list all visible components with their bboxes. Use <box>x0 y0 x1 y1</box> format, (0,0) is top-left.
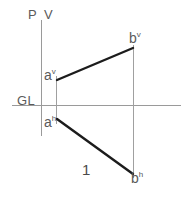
label-a-vertical-superscript: v <box>52 67 56 76</box>
label-a-horizontal: ah <box>44 115 56 129</box>
label-a-vertical-letter: a <box>44 67 52 83</box>
label-v: V <box>44 8 53 21</box>
diagram-canvas: P V GL av ah bv bh 1 <box>0 0 190 201</box>
label-b-vertical-superscript: v <box>137 30 141 39</box>
label-b-horizontal-superscript: h <box>139 170 143 179</box>
label-a-horizontal-superscript: h <box>52 114 56 123</box>
label-b-horizontal: bh <box>131 171 143 185</box>
segment-av-bv <box>57 48 133 80</box>
label-b-vertical: bv <box>129 31 141 45</box>
label-b-vertical-letter: b <box>129 30 137 46</box>
label-a-vertical: av <box>44 68 56 82</box>
label-figure-number: 1 <box>82 162 90 177</box>
label-gl: GL <box>17 94 35 107</box>
label-a-horizontal-letter: a <box>44 114 52 130</box>
segment-ah-bh <box>57 119 133 174</box>
label-p: P <box>28 8 37 21</box>
label-b-horizontal-letter: b <box>131 170 139 186</box>
